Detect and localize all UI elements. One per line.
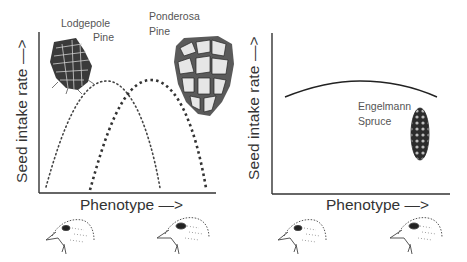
engelmann-label-line2: Spruce <box>358 114 411 128</box>
engelmann-label: Engelmann Spruce <box>358 99 411 128</box>
crossbill-head-icon <box>46 220 94 254</box>
spruce-cone-icon <box>411 108 429 160</box>
figure: Seed intake rate —> Phenotype —> Lodgepo… <box>0 0 467 262</box>
ponderosa-label: Ponderosa Pine <box>149 9 200 38</box>
left-x-axis-label: Phenotype —> <box>80 196 183 214</box>
engelmann-label-line1: Engelmann <box>358 99 411 113</box>
crossbill-head-icon <box>390 218 442 254</box>
lodgepole-label-line1: Lodgepole <box>61 16 114 30</box>
ponderosa-label-line2: Pine <box>149 24 200 38</box>
right-y-axis-label: Seed intake rate —> <box>245 36 263 180</box>
left-y-axis-label: Seed intake rate —> <box>13 39 31 183</box>
crossbill-head-icon <box>157 218 209 254</box>
crossbill-heads <box>46 218 442 254</box>
right-x-axis-label: Phenotype —> <box>326 196 429 214</box>
engelmann-curve <box>285 81 437 97</box>
lodgepole-curve <box>46 81 160 188</box>
crossbill-head-icon <box>278 220 326 254</box>
lodgepole-cone-icon <box>50 38 94 94</box>
ponderosa-cone-icon <box>174 36 234 116</box>
lodgepole-label: Lodgepole Pine <box>61 16 114 44</box>
lodgepole-label-line2: Pine <box>61 30 114 44</box>
ponderosa-label-line1: Ponderosa <box>149 9 200 23</box>
